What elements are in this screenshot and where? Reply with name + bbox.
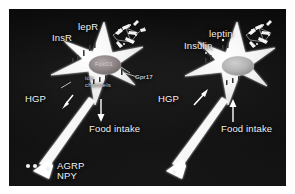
right-food-intake-arrow xyxy=(230,99,237,122)
micrograph-canvas: lepR InsR FoxO1 ion channels Gpr17 HGP F… xyxy=(9,9,286,186)
right-nucleus xyxy=(222,57,254,76)
left-axon xyxy=(39,97,95,167)
figure-root: lepR InsR FoxO1 ion channels Gpr17 HGP F… xyxy=(0,0,295,194)
left-receptor-cluster xyxy=(115,20,146,48)
left-hgp-pointer xyxy=(61,82,71,88)
right-axon xyxy=(172,97,228,167)
right-neuropeptide-vesicles xyxy=(172,170,176,174)
neuron-diagram-svg xyxy=(9,9,286,186)
left-neuron xyxy=(33,22,143,179)
right-neuron xyxy=(166,22,275,179)
right-insulin-receptors xyxy=(205,55,212,63)
right-hgp-arrow xyxy=(194,89,208,105)
left-food-intake-arrow xyxy=(98,99,105,122)
right-receptor-cluster xyxy=(248,20,272,48)
left-nucleus xyxy=(89,56,121,75)
left-hgp-arrow xyxy=(62,95,73,109)
